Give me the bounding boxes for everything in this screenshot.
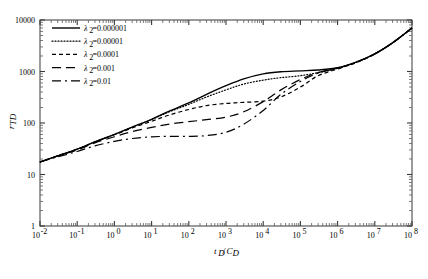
svg-text:10: 10 <box>218 231 226 240</box>
y-tick-label: 1 <box>31 222 35 231</box>
y-tick-label: 1000 <box>19 68 35 77</box>
chart-svg: 110100100010000 10-210-11001011021031041… <box>0 0 428 279</box>
y-tick-label: 100 <box>23 119 35 128</box>
svg-text:10: 10 <box>144 231 152 240</box>
svg-text:-2: -2 <box>41 227 48 236</box>
legend-item-value: =0.000001 <box>93 24 128 33</box>
legend-lambda-symbol: λ <box>83 50 88 59</box>
svg-text:-1: -1 <box>78 227 85 236</box>
svg-text:8: 8 <box>414 227 418 236</box>
svg-text:10: 10 <box>404 231 412 240</box>
svg-text:10: 10 <box>292 231 300 240</box>
svg-text:2: 2 <box>191 227 195 236</box>
legend-lambda-symbol: λ <box>83 64 88 73</box>
svg-text:1: 1 <box>154 227 158 236</box>
svg-text:0: 0 <box>116 227 120 236</box>
legend-item-value: =0.001 <box>93 64 116 73</box>
svg-text:6: 6 <box>340 227 344 236</box>
legend-lambda-symbol: λ <box>83 24 88 33</box>
svg-text:10: 10 <box>69 231 77 240</box>
svg-text:D: D <box>232 248 240 258</box>
figure-container: 110100100010000 10-210-11001011021031041… <box>0 0 428 279</box>
svg-text:10: 10 <box>106 231 114 240</box>
chart-background <box>0 0 428 279</box>
legend-lambda-symbol: λ <box>83 37 88 46</box>
svg-text:10: 10 <box>330 231 338 240</box>
svg-text:10: 10 <box>255 231 263 240</box>
svg-text:10: 10 <box>367 231 375 240</box>
svg-text:3: 3 <box>228 227 232 236</box>
svg-text:10: 10 <box>181 231 189 240</box>
legend-item-value: =0.00001 <box>93 37 124 46</box>
svg-text:7: 7 <box>377 227 381 236</box>
legend-item-value: =0.01 <box>93 77 112 86</box>
legend-lambda-symbol: λ <box>83 77 88 86</box>
svg-text:10: 10 <box>32 231 40 240</box>
svg-text:5: 5 <box>302 227 306 236</box>
y-tick-label: 10 <box>27 171 35 180</box>
svg-text:TD: TD <box>8 113 18 125</box>
y-tick-label: 10000 <box>15 16 35 25</box>
legend-item-value: =0.0001 <box>93 50 120 59</box>
svg-text:4: 4 <box>265 227 269 236</box>
